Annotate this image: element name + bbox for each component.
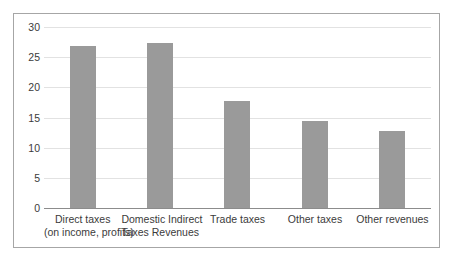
x-axis-label-line1: Trade taxes xyxy=(210,213,265,225)
y-axis: 051015202530 xyxy=(16,14,40,247)
bar[interactable] xyxy=(70,46,96,208)
x-axis-category-label: Other revenues xyxy=(354,213,431,226)
plot-area: 051015202530 Direct taxes(on income, pro… xyxy=(14,14,439,247)
bar[interactable] xyxy=(302,121,328,208)
y-axis-tick-label: 10 xyxy=(20,142,40,153)
y-axis-tick-label: 30 xyxy=(20,22,40,33)
x-axis-label-line2: (on income, profits) xyxy=(44,226,121,239)
x-axis-category-label: Direct taxes(on income, profits) xyxy=(44,213,121,239)
bar[interactable] xyxy=(224,101,250,208)
x-axis-category-label: Trade taxes xyxy=(199,213,276,226)
bar[interactable] xyxy=(147,43,173,208)
x-axis-category-label: Domestic IndirectTaxes Revenues xyxy=(121,213,198,239)
y-axis-tick-label: 25 xyxy=(20,52,40,63)
x-axis-label-line2: Taxes Revenues xyxy=(121,226,198,239)
y-axis-tick-label: 15 xyxy=(20,112,40,123)
chart-container: 051015202530 Direct taxes(on income, pro… xyxy=(13,13,440,248)
x-axis-label-line1: Other taxes xyxy=(288,213,342,225)
bar[interactable] xyxy=(379,131,405,208)
y-axis-tick-label: 5 xyxy=(20,173,40,184)
y-axis-tick-label: 20 xyxy=(20,82,40,93)
x-axis-label-line1: Direct taxes xyxy=(55,213,110,225)
x-axis-label-line1: Other revenues xyxy=(356,213,428,225)
x-axis-label-line1: Domestic Indirect xyxy=(121,213,202,225)
x-axis-category-label: Other taxes xyxy=(276,213,353,226)
y-axis-tick-label: 0 xyxy=(20,203,40,214)
